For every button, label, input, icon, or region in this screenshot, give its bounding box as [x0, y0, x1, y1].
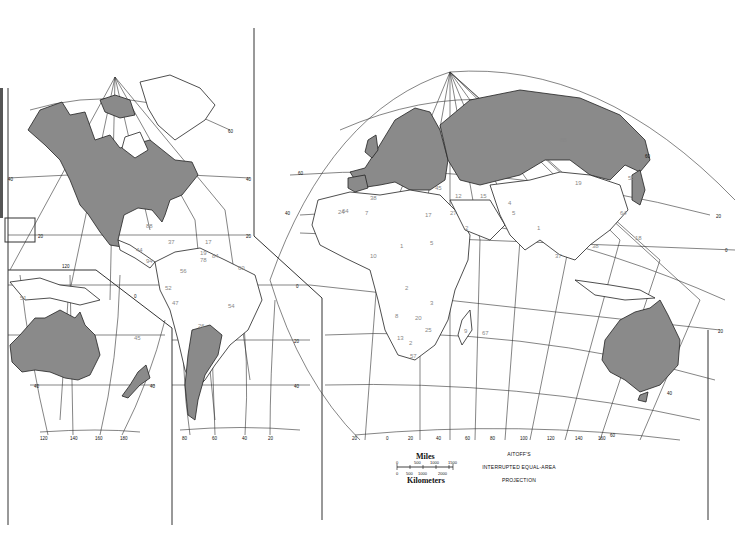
svg-text:20: 20 — [268, 436, 274, 441]
svg-text:27: 27 — [450, 210, 457, 216]
svg-text:80: 80 — [490, 436, 496, 441]
svg-text:38: 38 — [592, 243, 599, 249]
svg-text:84: 84 — [212, 253, 219, 259]
scale-miles-tick-500: 500 — [414, 460, 421, 465]
svg-text:24: 24 — [338, 209, 345, 215]
svg-text:0: 0 — [134, 294, 137, 299]
svg-text:60: 60 — [610, 433, 616, 438]
svg-text:47: 47 — [172, 300, 179, 306]
svg-text:10: 10 — [370, 253, 377, 259]
svg-text:52: 52 — [165, 285, 172, 291]
hawaii-inset — [5, 218, 35, 242]
svg-text:40: 40 — [436, 436, 442, 441]
svg-text:78: 78 — [200, 257, 207, 263]
svg-text:45: 45 — [134, 335, 141, 341]
svg-text:180: 180 — [120, 436, 128, 441]
svg-text:140: 140 — [70, 436, 78, 441]
argentina-chile — [185, 325, 222, 420]
svg-text:40: 40 — [246, 177, 252, 182]
svg-text:20: 20 — [408, 436, 414, 441]
svg-text:20: 20 — [38, 234, 44, 239]
svg-text:55: 55 — [628, 175, 635, 181]
australia-right — [602, 300, 680, 392]
svg-text:18: 18 — [635, 235, 642, 241]
projection-line-3: PROJECTION — [459, 477, 579, 483]
oceania-panel-frame — [8, 270, 172, 525]
svg-text:40: 40 — [294, 384, 300, 389]
tasmania — [638, 392, 648, 402]
svg-text:51: 51 — [20, 295, 27, 301]
svg-text:40: 40 — [150, 384, 156, 389]
svg-text:20: 20 — [718, 329, 724, 334]
svg-text:17: 17 — [205, 239, 212, 245]
svg-text:13: 13 — [397, 335, 404, 341]
svg-text:100: 100 — [520, 436, 528, 441]
svg-text:140: 140 — [575, 436, 583, 441]
svg-text:26: 26 — [198, 323, 205, 329]
svg-text:60: 60 — [228, 129, 234, 134]
projection-line-1: AITOFF'S — [459, 451, 579, 457]
svg-text:40: 40 — [285, 211, 291, 216]
svg-text:88: 88 — [560, 137, 567, 143]
arctic-islands — [100, 95, 135, 118]
scale-bar — [397, 464, 453, 470]
svg-text:0: 0 — [725, 248, 728, 253]
scale-miles-tick-0: 0 — [396, 460, 398, 465]
svg-text:160: 160 — [598, 436, 606, 441]
svg-text:40: 40 — [242, 436, 248, 441]
australia-left — [10, 310, 100, 380]
svg-text:12: 12 — [455, 193, 462, 199]
svg-text:45: 45 — [435, 185, 442, 191]
svg-text:60: 60 — [465, 436, 471, 441]
svg-text:120: 120 — [547, 436, 555, 441]
svg-text:37: 37 — [555, 253, 562, 259]
asia-south-east — [490, 172, 628, 260]
svg-text:88: 88 — [146, 223, 153, 229]
svg-text:17: 17 — [425, 212, 432, 218]
svg-text:160: 160 — [95, 436, 103, 441]
svg-text:38: 38 — [370, 195, 377, 201]
svg-text:67: 67 — [482, 330, 489, 336]
svg-text:40: 40 — [8, 177, 14, 182]
svg-text:120: 120 — [40, 436, 48, 441]
svg-text:37: 37 — [168, 239, 175, 245]
svg-text:40: 40 — [34, 384, 40, 389]
svg-text:20: 20 — [294, 339, 300, 344]
svg-text:60: 60 — [645, 154, 651, 159]
svg-text:56: 56 — [180, 268, 187, 274]
svg-text:54: 54 — [228, 303, 235, 309]
svg-text:20: 20 — [716, 214, 722, 219]
indonesia-right — [575, 280, 655, 300]
svg-text:20: 20 — [415, 315, 422, 321]
svg-text:64: 64 — [620, 210, 627, 216]
svg-text:80: 80 — [182, 436, 188, 441]
scale-miles-tick-1000: 1000 — [430, 460, 439, 465]
svg-text:94: 94 — [146, 258, 153, 264]
svg-text:20: 20 — [246, 234, 252, 239]
svg-text:60: 60 — [212, 436, 218, 441]
svg-text:40: 40 — [667, 391, 673, 396]
scale-km-tick-0: 0 — [396, 471, 398, 476]
svg-text:0: 0 — [386, 436, 389, 441]
svg-text:20: 20 — [352, 436, 358, 441]
svg-text:120: 120 — [62, 264, 70, 269]
scale-miles-tick-1500: 1500 — [448, 460, 457, 465]
svg-text:25: 25 — [425, 327, 432, 333]
svg-text:19: 19 — [200, 250, 207, 256]
svg-text:44: 44 — [136, 247, 143, 253]
svg-text:60: 60 — [298, 171, 304, 176]
projection-line-2: INTERRUPTED EQUAL-AREA — [459, 464, 579, 470]
svg-text:60: 60 — [238, 265, 245, 271]
greenland — [140, 75, 215, 140]
russia — [440, 90, 650, 185]
iberia — [348, 175, 368, 192]
world-map: 88 37 17 19 84 44 94 56 78 60 52 47 54 2… — [0, 0, 735, 546]
svg-text:15: 15 — [480, 193, 487, 199]
svg-text:19: 19 — [575, 180, 582, 186]
svg-text:57: 57 — [410, 353, 417, 359]
scale-km-label: Kilometers — [407, 476, 445, 485]
